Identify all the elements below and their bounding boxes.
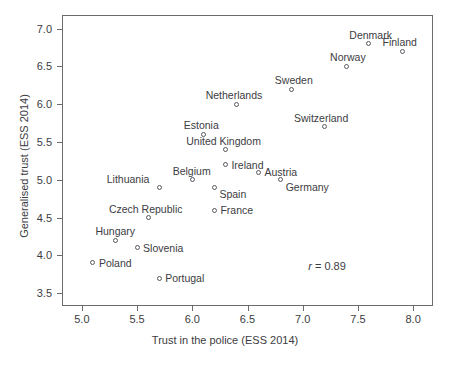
x-axis-tick-label: 7.0 [295,313,310,325]
data-point-label: Norway [330,52,366,63]
y-axis-tick-label: 6.0 [52,98,67,110]
data-point-label: Switzerland [294,113,348,124]
x-axis-tick [413,306,414,311]
x-axis-tick [137,306,138,311]
data-point [223,147,228,152]
data-point [289,87,294,92]
data-point [322,124,327,129]
data-point-label: Spain [219,189,246,200]
x-axis-tick-label: 8.0 [405,313,420,325]
y-axis-tick-label: 5.0 [52,174,67,186]
x-axis-tick [192,306,193,311]
data-point-label: Hungary [95,226,135,237]
correlation-value: = 0.89 [312,260,346,272]
x-axis-tick-label: 5.0 [74,313,89,325]
correlation-annotation: r = 0.89 [308,260,346,272]
scatter-plot-figure: DenmarkFinlandNorwaySwedenNetherlandsSwi… [0,0,450,366]
x-axis-label: Trust in the police (ESS 2014) [0,334,450,346]
data-point [146,215,151,220]
data-point-label: Poland [99,258,132,269]
x-axis-tick [82,306,83,311]
data-point-label: Netherlands [206,90,263,101]
data-point-label: Ireland [231,160,263,171]
data-point-label: Finland [382,37,416,48]
data-point [400,49,405,54]
data-point-label: Belgium [173,166,211,177]
x-axis-tick-label: 6.5 [240,313,255,325]
y-axis-tick-label: 4.0 [52,249,67,261]
x-axis-tick-label: 7.5 [350,313,365,325]
y-axis-tick-label: 3.5 [52,287,67,299]
data-point [366,41,371,46]
y-axis-tick-label: 5.5 [52,136,67,148]
x-axis-tick [303,306,304,311]
data-point [190,177,195,182]
y-axis-tick-label: 7.0 [52,23,67,35]
data-point [278,177,283,182]
data-point-label: Slovenia [143,243,183,254]
data-point-label: Germany [286,182,329,193]
plot-data-area: DenmarkFinlandNorwaySwedenNetherlandsSwi… [62,15,433,306]
data-point [344,64,349,69]
data-point-label: United Kingdom [186,136,261,147]
x-axis-tick [358,306,359,311]
x-axis-tick [248,306,249,311]
data-point-label: Czech Republic [109,204,183,215]
data-point-label: Lithuania [107,174,150,185]
data-point [234,102,239,107]
data-point [157,185,162,190]
data-point-label: Portugal [165,273,204,284]
data-point-label: Sweden [275,75,313,86]
data-point [113,238,118,243]
y-axis-label: Generalised trust (ESS 2014) [18,56,30,276]
data-point [212,185,217,190]
data-point [223,162,228,167]
data-point [90,260,95,265]
data-point [135,245,140,250]
data-point [157,276,162,281]
data-point-label: France [220,205,253,216]
data-point [256,170,261,175]
y-axis-tick-label: 4.5 [52,212,67,224]
y-axis-tick-label: 6.5 [52,60,67,72]
data-point [212,208,217,213]
x-axis-tick-label: 5.5 [129,313,144,325]
data-point-label: Estonia [184,120,219,131]
x-axis-tick-label: 6.0 [185,313,200,325]
